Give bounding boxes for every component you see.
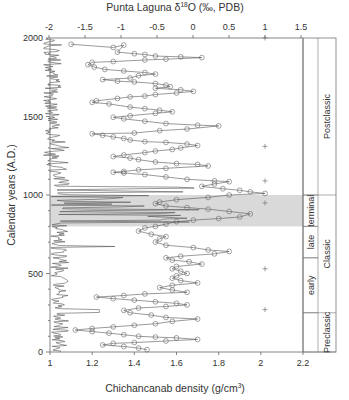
cross-markers	[263, 36, 268, 313]
top-tick-label: 1.5	[295, 22, 308, 32]
bottom-tick-label: 2.2	[297, 358, 310, 368]
y-axis-title: Calendar years (A.D.)	[5, 144, 17, 246]
bottom-tick-label: 1.6	[170, 358, 183, 368]
top-tick-label: 0	[190, 22, 195, 32]
cross-marker	[263, 307, 268, 312]
period-label-postclassic: Postclassic	[322, 93, 332, 139]
cross-marker	[263, 266, 268, 271]
bottom-tick-label: 1.2	[86, 358, 99, 368]
bottom-tick-label: 1	[47, 358, 52, 368]
bottom-tick-label: 1.4	[128, 358, 141, 368]
period-label-classic: Classic	[322, 239, 332, 269]
subperiod-label-late: late	[306, 235, 316, 250]
subperiod-label-early: early	[306, 275, 316, 295]
bottom-tick-label: 1.8	[212, 358, 225, 368]
top-tick-label: -0.5	[149, 22, 165, 32]
y-tick-label: 1000	[23, 190, 43, 200]
cross-marker	[263, 144, 268, 149]
subperiod-label-terminal: terminal	[306, 195, 316, 227]
top-tick-label: 0.5	[223, 22, 236, 32]
y-tick-label: 2000	[23, 33, 43, 43]
period-label-preclassic: Preclassic	[322, 311, 332, 353]
top-tick-label: -1.5	[77, 22, 93, 32]
y-tick-label: 500	[28, 269, 43, 279]
bottom-tick-label: 2	[258, 358, 263, 368]
top-tick-label: -1	[117, 22, 125, 32]
period-columns: PostclassicClassicPreclassicterminallate…	[303, 38, 336, 353]
cross-marker	[263, 178, 268, 183]
bottom-axis-title: Chichancanab density (g/cm3)	[105, 382, 245, 394]
top-tick-label: 1	[262, 22, 267, 32]
top-axis-title: Punta Laguna δ18O (‰, PDB)	[106, 1, 243, 13]
y-tick-label: 1500	[23, 112, 43, 122]
y-tick-label: 0	[38, 347, 43, 357]
chart: 11.21.41.61.822.2-2-1.5-1-0.500.511.5050…	[0, 0, 349, 400]
top-tick-label: -2	[45, 22, 53, 32]
